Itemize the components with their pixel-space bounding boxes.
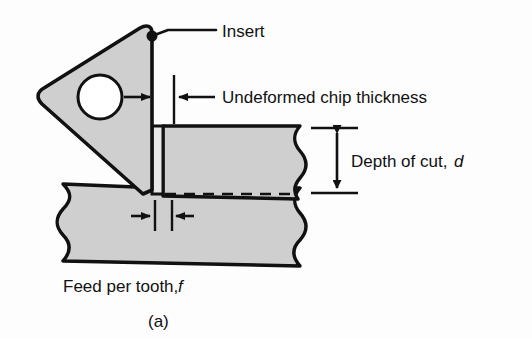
feed-per-tooth-symbol: f xyxy=(178,277,185,296)
machining-diagram: Insert Undeformed chip thickness Depth o… xyxy=(0,0,532,339)
insert-leader-line xyxy=(152,30,216,36)
workpiece-upper-step xyxy=(163,126,306,199)
figure-caption: (a) xyxy=(148,312,169,331)
figure-container: Insert Undeformed chip thickness Depth o… xyxy=(0,0,532,339)
depth-of-cut-label: Depth of cut, xyxy=(351,152,447,171)
insert-clamp-hole xyxy=(78,75,122,119)
insert-label: Insert xyxy=(222,22,265,41)
insert-leader-dot xyxy=(147,31,158,42)
depth-of-cut-symbol: d xyxy=(454,152,464,171)
undeformed-chip-thickness-label: Undeformed chip thickness xyxy=(222,88,427,107)
feed-per-tooth-label: Feed per tooth, xyxy=(63,277,178,296)
